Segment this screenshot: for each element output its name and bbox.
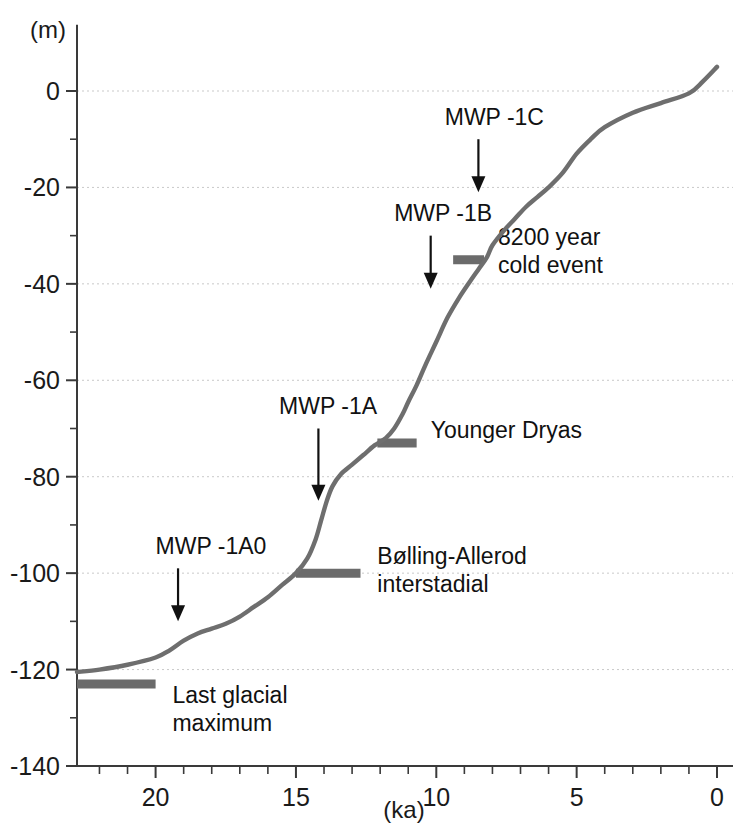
sea-level-chart: 0-20-40-60-80-100-120-140 20151050 (m) (…: [0, 0, 733, 832]
event-label-bolling-allerod-interstadial: interstadial: [377, 571, 488, 597]
annotation-arrow-head-mwp-1a: [311, 485, 325, 501]
x-tick-label: 20: [142, 783, 170, 811]
event-bars: [77, 260, 484, 684]
annotation-label-mwp-1b: MWP -1B: [394, 200, 492, 226]
x-tick-label: 0: [710, 783, 724, 811]
y-tick-label: -100: [10, 559, 60, 587]
y-tick-label: -80: [24, 463, 60, 491]
event-label-younger-dryas: Younger Dryas: [431, 417, 582, 443]
chart-canvas: 0-20-40-60-80-100-120-140 20151050 (m) (…: [0, 0, 733, 832]
annotation-label-mwp-1a: MWP -1A: [279, 393, 378, 419]
y-tick-label-group: 0-20-40-60-80-100-120-140: [10, 77, 60, 780]
y-tick-label: -60: [24, 366, 60, 394]
x-tick-label: 10: [422, 783, 450, 811]
annotation-arrow-head-mwp-1a0: [171, 605, 185, 621]
event-label-8200-year-cold-event: cold event: [498, 252, 603, 278]
annotation-arrow-head-mwp-1c: [471, 176, 485, 192]
y-tick-label: 0: [46, 77, 60, 105]
y-axis-unit-label: (m): [30, 16, 66, 43]
annotation-label-mwp-1a0: MWP -1A0: [156, 533, 267, 559]
event-label-bolling-allerod-interstadial: Bølling-Allerod: [377, 543, 527, 569]
x-tick-label: 15: [282, 783, 310, 811]
event-bar-labels: Last glacialmaximumBølling-Allerodinters…: [172, 224, 603, 736]
x-tick-label: 5: [570, 783, 584, 811]
event-label-8200-year-cold-event: 8200 year: [498, 224, 601, 250]
x-tick-group: [99, 766, 717, 778]
y-tick-group: [66, 91, 77, 766]
event-label-last-glacial-maximum: maximum: [172, 710, 272, 736]
annotation-arrow-head-mwp-1b: [424, 273, 438, 289]
annotation-label-mwp-1c: MWP -1C: [445, 104, 544, 130]
y-tick-label: -40: [24, 270, 60, 298]
y-tick-label: -140: [10, 752, 60, 780]
y-tick-label: -20: [24, 173, 60, 201]
event-label-last-glacial-maximum: Last glacial: [172, 682, 287, 708]
y-tick-label: -120: [10, 656, 60, 684]
x-tick-label-group: 20151050: [142, 783, 724, 811]
x-axis-unit-label: (ka): [383, 796, 424, 823]
